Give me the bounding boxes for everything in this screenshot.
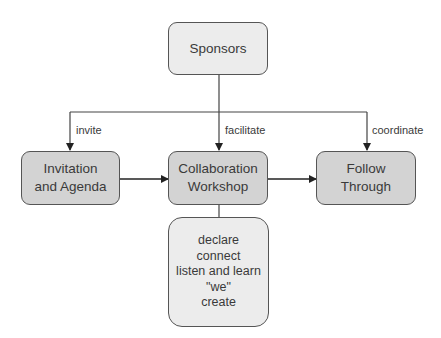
- workshop-node: Collaboration Workshop: [168, 151, 268, 205]
- workshop-label: Collaboration Workshop: [178, 160, 258, 196]
- sponsors-node: Sponsors: [168, 22, 268, 75]
- facilitate-label: facilitate: [225, 124, 265, 136]
- activities-node: declare connect listen and learn "we" cr…: [168, 217, 269, 327]
- invitation-node: Invitation and Agenda: [21, 151, 120, 205]
- invite-label: invite: [76, 124, 102, 136]
- coordinate-label: coordinate: [372, 124, 423, 136]
- activities-label: declare connect listen and learn "we" cr…: [176, 233, 261, 311]
- follow-through-label: Follow Through: [341, 160, 391, 196]
- invitation-label: Invitation and Agenda: [34, 160, 106, 196]
- sponsors-label: Sponsors: [189, 40, 246, 58]
- follow-through-node: Follow Through: [316, 151, 416, 205]
